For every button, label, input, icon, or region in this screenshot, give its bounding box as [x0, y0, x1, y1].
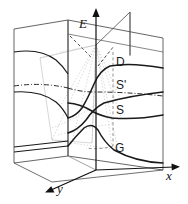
axis-label-y: y [55, 181, 63, 196]
back-band-lower-2 [14, 146, 68, 152]
back-band-middle [14, 92, 68, 118]
dashed-band-d-upper [98, 46, 114, 66]
origin-triangle-base [68, 34, 163, 52]
energy-axis-arrow [92, 8, 99, 17]
band-label-S-prime: S' [116, 78, 126, 92]
construction-line-5 [58, 45, 96, 110]
fermi-level-back-plane [14, 84, 68, 88]
axis-label-energy: E [78, 16, 87, 31]
construction-lines-group [40, 45, 122, 150]
band-label-G: G [115, 141, 124, 155]
construction-curve-2 [58, 124, 112, 135]
base-plane-front-edge [52, 170, 163, 182]
band-diagram-figure: E x y D S' S G [0, 0, 188, 204]
band-label-D: D [116, 55, 125, 69]
back-band-lower-1 [14, 141, 68, 147]
origin-triangle-outline [96, 12, 130, 55]
base-plane-left-edge [14, 163, 52, 182]
fermi-level-group [14, 84, 163, 96]
axis-label-x: x [165, 168, 172, 183]
band-label-S: S [116, 103, 124, 117]
band-diagram-svg: E x y D S' S G [0, 0, 188, 204]
x-axis-arrow [172, 164, 181, 171]
